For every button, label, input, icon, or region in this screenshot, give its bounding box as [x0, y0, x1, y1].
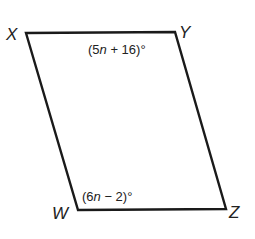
angle-label-w: (6n − 2)°	[82, 189, 132, 204]
vertex-label-z: Z	[228, 203, 240, 222]
parallelogram-diagram: X Y Z W (5n + 16)° (6n − 2)°	[0, 0, 255, 239]
parallelogram-xyzw	[26, 32, 226, 210]
vertex-label-w: W	[52, 204, 70, 223]
vertex-label-x: X	[5, 25, 18, 44]
angle-label-y: (5n + 16)°	[88, 42, 146, 57]
vertex-label-y: Y	[179, 23, 192, 42]
